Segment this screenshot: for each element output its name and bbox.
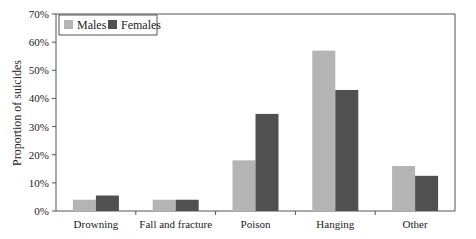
bar-females-other <box>415 176 438 211</box>
legend: MalesFemales <box>59 15 161 35</box>
bar-males-fall-and-fracture <box>153 200 176 211</box>
x-axis: DrowningFall and fracturePoisonHangingOt… <box>74 211 428 230</box>
bar-females-poison <box>256 114 279 211</box>
bar-females-drowning <box>96 196 119 211</box>
y-axis: 0%10%20%30%40%50%60%70% <box>29 8 56 217</box>
bar-males-other <box>392 166 415 211</box>
x-tick-label: Other <box>403 218 428 230</box>
bar-females-fall-and-fracture <box>176 200 199 211</box>
y-tick-label: 20% <box>29 149 49 161</box>
legend-swatch-males <box>64 20 73 29</box>
y-tick-label: 0% <box>34 205 49 217</box>
x-tick-label: Drowning <box>74 218 119 230</box>
legend-swatch-females <box>108 20 117 29</box>
bars <box>73 51 438 211</box>
y-tick-label: 60% <box>29 36 49 48</box>
legend-label-males: Males <box>77 18 107 32</box>
bar-males-drowning <box>73 200 96 211</box>
bar-males-poison <box>233 160 256 211</box>
y-tick-label: 70% <box>29 8 49 20</box>
bar-males-hanging <box>312 51 335 211</box>
x-tick-label: Hanging <box>316 218 354 230</box>
y-tick-label: 50% <box>29 64 49 76</box>
x-tick-label: Poison <box>241 218 271 230</box>
y-axis-label: Proportion of suicides <box>10 60 24 166</box>
y-tick-label: 10% <box>29 177 49 189</box>
bar-chart: 0%10%20%30%40%50%60%70% DrowningFall and… <box>0 0 476 239</box>
y-tick-label: 30% <box>29 121 49 133</box>
bar-females-hanging <box>335 90 358 211</box>
x-tick-label: Fall and fracture <box>139 218 212 230</box>
legend-label-females: Females <box>121 18 161 32</box>
y-tick-label: 40% <box>29 92 49 104</box>
